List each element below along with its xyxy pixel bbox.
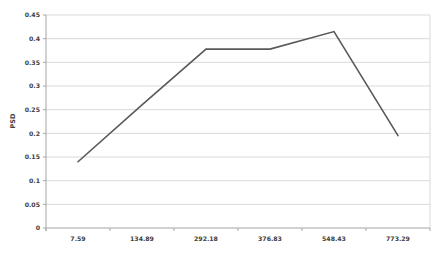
- y-tick-label: 0.45: [25, 11, 40, 18]
- y-tick-label: 0.25: [25, 106, 40, 113]
- y-tick-label: 0.05: [25, 201, 40, 208]
- x-tick-label: 773.29: [386, 235, 410, 242]
- y-axis-title: PSD: [9, 113, 17, 128]
- line-chart: 00.050.10.150.20.250.30.350.40.457.59134…: [0, 0, 442, 256]
- psd-line: [78, 32, 398, 162]
- y-tick-label: 0.15: [25, 153, 40, 160]
- x-tick-label: 134.89: [130, 235, 154, 242]
- y-tick-label: 0: [36, 224, 41, 231]
- y-tick-label: 0.3: [29, 82, 40, 89]
- y-tick-label: 0.2: [29, 130, 40, 137]
- series: [78, 32, 398, 162]
- x-tick-label: 376.83: [258, 235, 282, 242]
- axes: [43, 15, 430, 231]
- x-tick-label: 292.18: [194, 235, 218, 242]
- y-tick-label: 0.4: [29, 35, 41, 42]
- y-tick-label: 0.1: [29, 177, 40, 184]
- x-tick-label: 7.59: [70, 235, 85, 242]
- tick-labels: 00.050.10.150.20.250.30.350.40.457.59134…: [25, 11, 410, 242]
- gridlines: [46, 15, 430, 228]
- chart-container: 00.050.10.150.20.250.30.350.40.457.59134…: [0, 0, 442, 256]
- x-tick-label: 548.43: [322, 235, 346, 242]
- y-tick-label: 0.35: [25, 59, 40, 66]
